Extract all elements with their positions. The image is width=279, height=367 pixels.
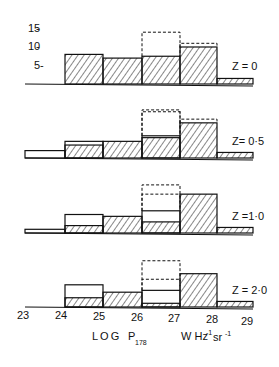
svg-text:-1: -1 bbox=[225, 330, 231, 337]
svg-text:-: - bbox=[36, 40, 40, 52]
histogram-panels bbox=[25, 32, 253, 309]
hatched-bar bbox=[142, 138, 180, 158]
hatched-bar bbox=[142, 222, 180, 233]
hatched-bar bbox=[142, 303, 180, 307]
open-bar bbox=[25, 229, 65, 233]
hatched-bar bbox=[217, 227, 253, 233]
histogram-chart: 15 - 10 - 5 - Z = 0 Z= 0·5 Z =1·0 Z = 2·… bbox=[0, 0, 279, 367]
panel-0 bbox=[25, 32, 253, 86]
hatched-bar bbox=[180, 47, 217, 84]
svg-text:-: - bbox=[36, 22, 40, 34]
hatched-bar bbox=[180, 123, 217, 158]
svg-text:-: - bbox=[40, 59, 44, 71]
open-bar bbox=[25, 151, 65, 158]
panel-label-z0: Z = 0 bbox=[232, 60, 257, 72]
x-axis-label: LOG P 178 W Hz -1 sr -1 bbox=[92, 329, 231, 346]
hatched-bar bbox=[65, 145, 103, 158]
hatched-bar bbox=[103, 58, 142, 84]
hatched-bar bbox=[142, 56, 180, 84]
panel-3 bbox=[25, 261, 253, 309]
panel-label-z10: Z =1·0 bbox=[232, 210, 264, 222]
hatched-bar bbox=[103, 292, 142, 307]
x-axis: 23 24 25 26 27 28 29 bbox=[17, 309, 253, 327]
x-tick-28: 28 bbox=[206, 313, 218, 325]
dashed-bar bbox=[142, 112, 180, 136]
hatched-bar bbox=[65, 226, 103, 233]
x-tick-26: 26 bbox=[131, 311, 143, 323]
svg-text:178: 178 bbox=[135, 339, 147, 346]
x-tick-29: 29 bbox=[241, 315, 253, 327]
dashed-bar bbox=[142, 185, 180, 211]
panel-label-z20: Z = 2·0 bbox=[232, 284, 267, 296]
svg-text:LOG: LOG bbox=[92, 330, 121, 342]
dashed-bar bbox=[142, 110, 180, 136]
hatched-bar bbox=[180, 274, 217, 307]
svg-text:-1: -1 bbox=[206, 329, 212, 336]
x-tick-23: 23 bbox=[17, 309, 29, 321]
svg-text:sr: sr bbox=[213, 331, 223, 343]
hatched-bar bbox=[103, 141, 142, 158]
hatched-bar bbox=[103, 216, 142, 233]
dashed-bar bbox=[142, 32, 180, 56]
x-tick-24: 24 bbox=[55, 309, 67, 321]
x-tick-27: 27 bbox=[168, 312, 180, 324]
dashed-bar bbox=[142, 261, 180, 291]
hatched-bar bbox=[217, 301, 253, 307]
hatched-bar bbox=[217, 78, 253, 84]
panel-2 bbox=[25, 185, 253, 235]
dashed-bar bbox=[142, 194, 180, 211]
panel-1 bbox=[25, 110, 253, 160]
svg-text:W Hz: W Hz bbox=[181, 330, 208, 342]
hatched-bar bbox=[65, 54, 103, 84]
hatched-bar bbox=[180, 194, 217, 233]
hatched-bar bbox=[65, 298, 103, 307]
hatched-bar bbox=[217, 152, 253, 158]
y-axis: 15 - 10 - 5 - bbox=[28, 22, 44, 71]
dashed-bar bbox=[142, 279, 180, 290]
panel-label-z05: Z= 0·5 bbox=[232, 135, 264, 147]
x-tick-25: 25 bbox=[93, 310, 105, 322]
